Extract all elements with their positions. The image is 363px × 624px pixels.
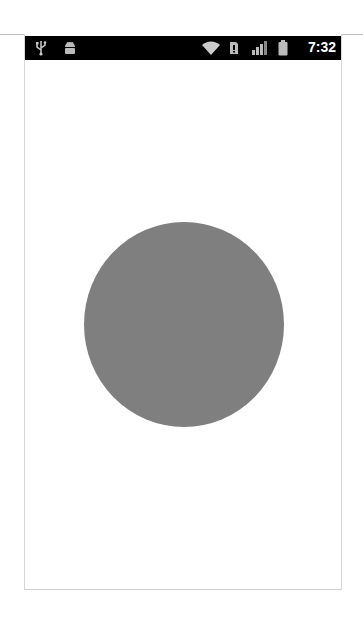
battery-icon [278,40,288,56]
signal-icon [251,40,267,56]
canvas-area[interactable] [25,60,341,589]
wifi-icon [202,40,220,56]
usb-icon [35,40,47,56]
clock: 7:32 [308,39,336,55]
status-bar: 7:32 [25,36,341,60]
gray-circle[interactable] [84,222,284,427]
device-frame: 7:32 [24,34,342,590]
sim-icon [229,40,239,56]
android-debug-icon [63,40,77,56]
